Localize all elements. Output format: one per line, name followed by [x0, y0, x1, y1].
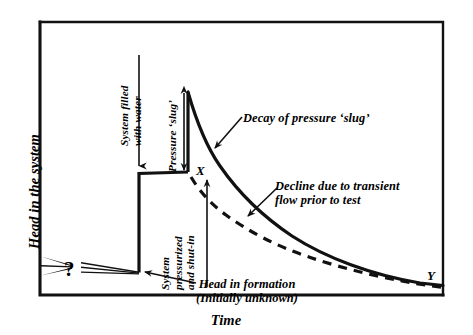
plot-frame: [40, 22, 443, 295]
figure-container: Head in the system Time System filled wi…: [0, 0, 473, 335]
decay-callout-arrow: [215, 117, 242, 148]
point-label-x: X: [196, 164, 205, 179]
annotation-system-pressurized: System pressurized and shut-in: [159, 235, 197, 290]
x-axis-title: Time: [211, 312, 241, 328]
annotation-system-filled: System filled with water: [118, 85, 143, 146]
unknown-head-question-mark: ?: [64, 258, 75, 282]
point-label-y: Y: [427, 269, 435, 284]
annotation-head-in-formation: Head in formation (Initially unknown): [196, 278, 298, 306]
annotation-decay-of-pressure-slug: Decay of pressure ‘slug’: [243, 112, 370, 126]
annotation-decline-transient-flow: Decline due to transient flow prior to t…: [275, 180, 400, 208]
annotation-pressure-slug: Pressure ‘slug’: [166, 100, 179, 172]
uncertainty-fan-right: [81, 262, 139, 275]
y-axis-title: Head in the system: [26, 134, 42, 249]
